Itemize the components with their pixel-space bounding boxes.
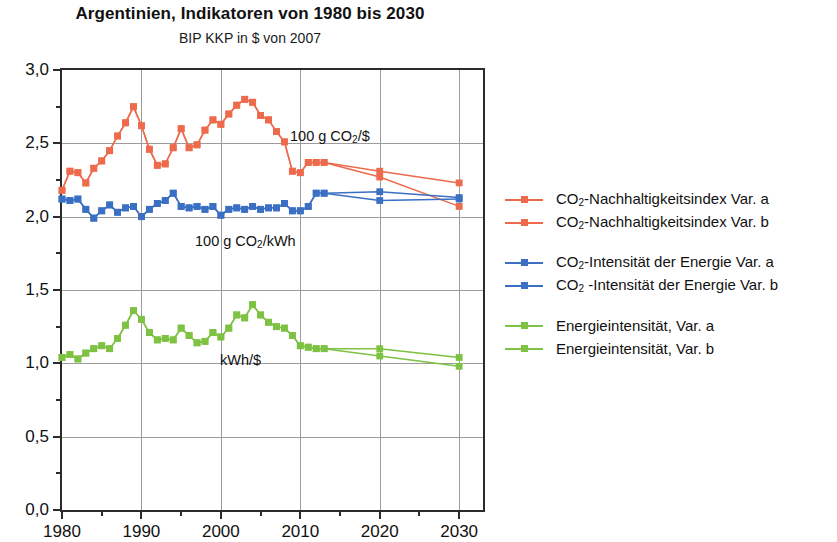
page-title: Argentinien, Indikatoren von 1980 bis 20… [0, 4, 500, 24]
legend-swatch-icon [505, 194, 543, 206]
series-marker [74, 356, 81, 363]
series-marker [217, 121, 224, 128]
legend-swatch-icon [505, 343, 543, 355]
series-marker [321, 159, 328, 166]
series-marker [162, 160, 169, 167]
series-marker [74, 196, 81, 203]
series-marker [257, 206, 264, 213]
legend-item[interactable]: CO2 -Intensität der Energie Var. b [505, 274, 837, 297]
series-marker [122, 119, 129, 126]
x-tick-minor [260, 510, 262, 516]
x-tick-major [220, 510, 222, 519]
series-marker [82, 350, 89, 357]
series-marker [138, 122, 145, 129]
series-layer [62, 70, 483, 510]
legend-label: Energieintensität, Var. b [556, 341, 714, 356]
series-marker [146, 146, 153, 153]
legend-group: Energieintensität, Var. aEnergieintensit… [505, 314, 837, 360]
series-marker [281, 325, 288, 332]
series-marker [130, 103, 137, 110]
legend-item[interactable]: CO2-Nachhaltigkeitsindex Var. a [505, 188, 837, 211]
series-marker [289, 207, 296, 214]
series-marker [98, 158, 105, 165]
series-marker [130, 203, 137, 210]
series-marker [297, 342, 304, 349]
series-marker [90, 165, 97, 172]
series-marker [210, 329, 217, 336]
x-axis-label: 2030 [440, 522, 478, 542]
series-marker [265, 116, 272, 123]
series-marker [225, 206, 232, 213]
x-axis-label: 2000 [202, 522, 240, 542]
series-marker [98, 207, 105, 214]
series-marker [265, 319, 272, 326]
series-marker [225, 111, 232, 118]
legend-swatch-icon [505, 257, 543, 269]
legend-group: CO2-Nachhaltigkeitsindex Var. aCO2-Nachh… [505, 188, 837, 234]
legend-swatch-icon [505, 280, 543, 292]
x-tick-major [458, 510, 460, 519]
series-marker [178, 325, 185, 332]
series-marker [321, 190, 328, 197]
series-marker [297, 169, 304, 176]
y-tick-major [53, 436, 62, 438]
series-marker [456, 180, 463, 187]
series-marker [321, 345, 328, 352]
legend-label: CO2-Intensität der Energie Var. a [556, 254, 774, 271]
annotation-co2-per-dollar: 100 g CO2/$ [290, 128, 370, 145]
x-tick-major [379, 510, 381, 519]
series-marker [289, 332, 296, 339]
series-marker [59, 196, 66, 203]
series-marker [225, 325, 232, 332]
series-marker [202, 127, 209, 134]
series-line [62, 192, 459, 218]
series-marker [194, 203, 201, 210]
x-tick-minor [339, 510, 341, 516]
series-marker [67, 351, 74, 358]
series-marker [154, 162, 161, 169]
series-marker [90, 345, 97, 352]
x-axis-label: 2020 [361, 522, 399, 542]
series-marker [313, 190, 320, 197]
x-tick-major [61, 510, 63, 519]
y-axis-label: 0,0 [25, 500, 49, 520]
y-axis-label: 2,5 [25, 133, 49, 153]
series-marker [130, 307, 137, 314]
series-marker [376, 188, 383, 195]
series-marker [106, 147, 113, 154]
legend-item[interactable]: Energieintensität, Var. a [505, 314, 837, 337]
series-marker [241, 314, 248, 321]
legend-item[interactable]: CO2-Nachhaltigkeitsindex Var. b [505, 211, 837, 234]
x-axis-label: 1980 [43, 522, 81, 542]
series-line [62, 193, 459, 218]
series-marker [376, 353, 383, 360]
series-marker [249, 301, 256, 308]
series-marker [257, 112, 264, 119]
series-marker [186, 144, 193, 151]
series-marker [202, 206, 209, 213]
series-marker [114, 133, 121, 140]
legend-label: CO2-Nachhaltigkeitsindex Var. a [556, 191, 769, 208]
series-marker [146, 329, 153, 336]
series-marker [456, 196, 463, 203]
series-marker [376, 168, 383, 175]
series-marker [138, 213, 145, 220]
series-marker [305, 203, 312, 210]
series-marker [162, 335, 169, 342]
annotation-co2-per-kwh: 100 g CO2/kWh [195, 233, 296, 250]
series-marker [233, 312, 240, 319]
chart-legend: CO2-Nachhaltigkeitsindex Var. aCO2-Nachh… [505, 188, 837, 377]
y-tick-major [53, 362, 62, 364]
legend-item[interactable]: Energieintensität, Var. b [505, 337, 837, 360]
legend-item[interactable]: CO2-Intensität der Energie Var. a [505, 251, 837, 274]
legend-label: CO2 -Intensität der Energie Var. b [556, 277, 778, 294]
x-tick-minor [418, 510, 420, 516]
x-tick-major [140, 510, 142, 519]
series-marker [154, 336, 161, 343]
series-marker [170, 144, 177, 151]
series-marker [305, 344, 312, 351]
series-marker [217, 212, 224, 219]
x-axis-label: 2010 [281, 522, 319, 542]
series-marker [82, 180, 89, 187]
series-marker [114, 209, 121, 216]
